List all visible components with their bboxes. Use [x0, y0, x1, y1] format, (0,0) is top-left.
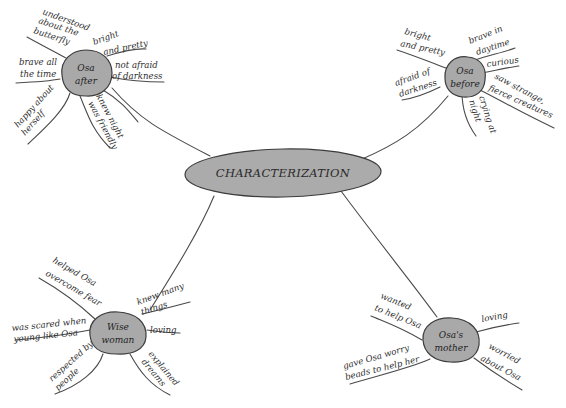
mind-map-canvas: CHARACTERIZATION Osa after Osa before Wi…	[0, 0, 566, 408]
connector-osa-after	[112, 88, 210, 156]
node-osa-before: Osa before	[445, 57, 485, 97]
central-topic: CHARACTERIZATION	[185, 147, 382, 198]
central-topic-label: CHARACTERIZATION	[216, 166, 351, 180]
connector-osa-before	[360, 96, 448, 160]
node-osa-after-label-2: after	[75, 76, 98, 86]
branch-label: loving	[481, 309, 509, 324]
node-osa-after-label-1: Osa	[77, 63, 94, 73]
node-wise-woman-label-2: woman	[102, 335, 135, 345]
node-osas-mother-label-2: mother	[435, 343, 469, 353]
branch-label: brave all	[19, 57, 57, 67]
branch-label: of darkness	[112, 71, 163, 81]
branch-label: not afraid	[115, 60, 158, 70]
node-wise-woman: Wise woman	[90, 312, 146, 354]
node-osas-mother: Osa's mother	[423, 318, 479, 362]
branch-label: loving	[150, 325, 177, 335]
node-osas-mother-label-1: Osa's	[439, 330, 464, 340]
branch-label: the time	[20, 69, 56, 79]
node-osa-before-label-1: Osa	[456, 66, 473, 76]
node-wise-woman-label-1: Wise	[107, 322, 129, 332]
node-osa-before-label-2: before	[450, 79, 479, 89]
